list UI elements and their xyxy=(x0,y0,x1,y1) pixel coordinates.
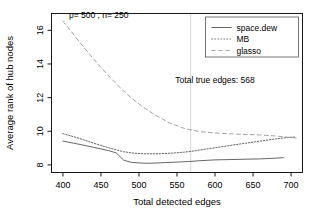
series-MB xyxy=(63,134,295,154)
x-tick-label: 550 xyxy=(169,180,184,190)
chart-figure: 400450500550600650700810121416Total dete… xyxy=(0,0,311,213)
y-tick-label: 14 xyxy=(36,59,46,69)
y-tick-label: 16 xyxy=(36,25,46,35)
y-tick-label: 12 xyxy=(36,93,46,103)
params-annotation: p= 500 , n= 250 xyxy=(69,10,129,20)
x-axis-title: Total detected edges xyxy=(133,196,221,207)
x-tick-label: 500 xyxy=(131,180,146,190)
x-tick-label: 450 xyxy=(93,180,108,190)
x-tick-label: 600 xyxy=(208,180,223,190)
x-tick-label: 400 xyxy=(55,180,70,190)
chart-svg: 400450500550600650700810121416Total dete… xyxy=(0,0,311,213)
legend-label-MB: MB xyxy=(237,34,250,44)
y-axis-title: Average rank of hub nodes xyxy=(4,36,15,150)
x-tick-label: 700 xyxy=(284,180,299,190)
legend-label-glasso: glasso xyxy=(237,46,262,56)
legend-label-space-dew: space.dew xyxy=(237,23,278,33)
x-tick-label: 650 xyxy=(246,180,261,190)
y-tick-label: 8 xyxy=(36,162,46,167)
true-edges-annotation: Total true edges: 568 xyxy=(175,75,255,85)
y-tick-label: 10 xyxy=(36,126,46,136)
series-space-dew xyxy=(63,141,284,163)
